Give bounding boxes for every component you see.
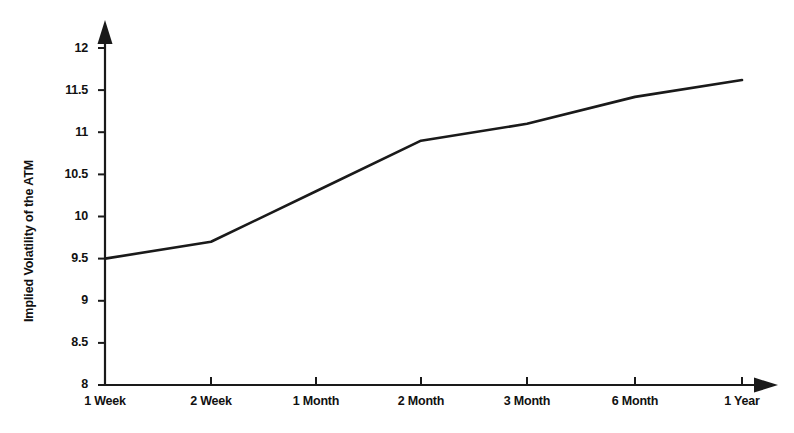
- x-axis-tick-label: 6 Month: [585, 394, 685, 408]
- y-axis-tick-label: 10: [44, 209, 88, 223]
- y-axis-tick-label: 10.5: [44, 167, 88, 181]
- y-axis-tick-label: 8: [44, 377, 88, 391]
- x-axis-ticks: [105, 377, 742, 385]
- x-axis-tick-label: 1 Month: [266, 394, 366, 408]
- y-axis-tick-label: 9: [44, 293, 88, 307]
- y-axis-tick-label: 8.5: [44, 335, 88, 349]
- x-axis-tick-label: 1 Week: [55, 394, 155, 408]
- x-axis-tick-label: 1 Year: [692, 394, 792, 408]
- y-axis-arrowhead-icon: [98, 20, 113, 44]
- y-axis-title: Implied Volatility of the ATM: [22, 22, 36, 322]
- data-series-line: [105, 80, 742, 259]
- y-axis-tick-label: 12: [44, 41, 88, 55]
- x-axis-tick-label: 3 Month: [477, 394, 577, 408]
- y-axis-tick-label: 11: [44, 125, 88, 139]
- line-chart-plot: [0, 0, 794, 433]
- chart-container: Implied Volatility of the ATM 12 11.5 11…: [0, 0, 794, 433]
- x-axis-tick-label: 2 Week: [161, 394, 261, 408]
- axis-lines: [105, 38, 762, 385]
- x-axis-tick-label: 2 Month: [371, 394, 471, 408]
- y-axis-tick-label: 11.5: [44, 83, 88, 97]
- x-axis-arrowhead-icon: [754, 378, 778, 393]
- y-axis-tick-label: 9.5: [44, 251, 88, 265]
